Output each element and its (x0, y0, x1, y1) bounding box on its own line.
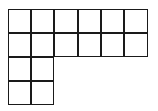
grid-square (54, 9, 77, 33)
grid-square (78, 9, 101, 33)
grid-square (31, 9, 54, 33)
grid-square (78, 33, 101, 57)
grid-square (124, 9, 147, 33)
grid-square (54, 33, 77, 57)
grid-square (124, 33, 147, 57)
grid-square (8, 81, 31, 105)
grid-square (8, 9, 31, 33)
grid-square (31, 81, 54, 105)
grid-square (101, 33, 124, 57)
grid-square (8, 57, 31, 81)
grid-square (31, 33, 54, 57)
grid-square (8, 33, 31, 57)
grid-square (101, 9, 124, 33)
grid-square (31, 57, 54, 81)
